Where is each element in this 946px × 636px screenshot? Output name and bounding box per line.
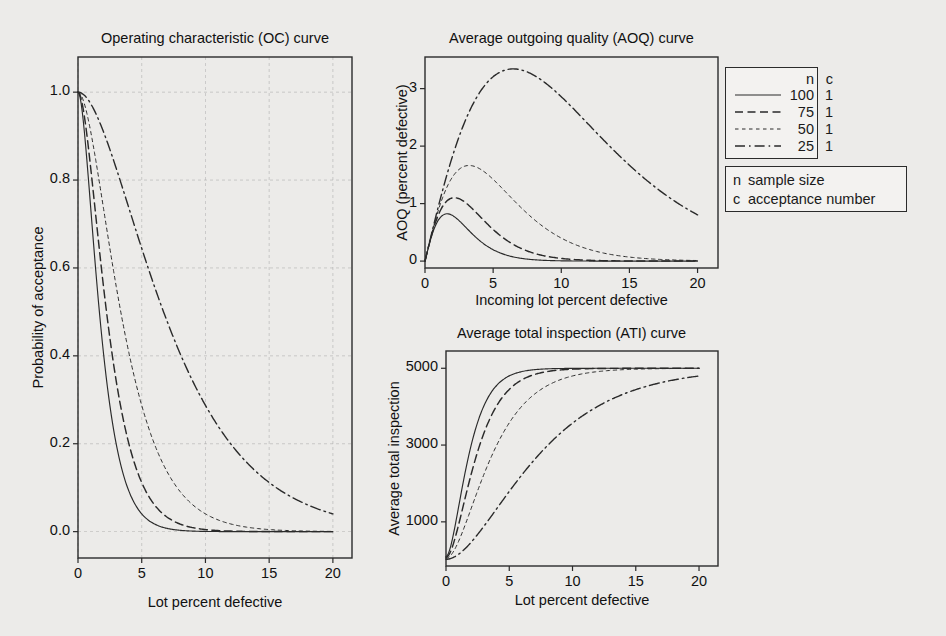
legend-line-sample-solid bbox=[732, 88, 784, 102]
oc-x-axis-label: Lot percent defective bbox=[78, 594, 352, 610]
oc-ytick-4: 0.8 bbox=[12, 170, 70, 186]
ati-ytick-2: 5000 bbox=[380, 358, 438, 374]
definition-key: n bbox=[733, 171, 748, 190]
legend-line-sample-dotted bbox=[732, 122, 784, 136]
aoq-xtick-3: 15 bbox=[607, 275, 651, 291]
oc-y-axis-label: Probability of acceptance bbox=[30, 57, 46, 558]
legend-item-n75: 751 bbox=[732, 103, 809, 120]
aoq-xtick-2: 10 bbox=[539, 275, 583, 291]
definition-n: nsample size bbox=[733, 171, 899, 190]
ati-ytick-1: 3000 bbox=[380, 435, 438, 451]
legend-c-value: 1 bbox=[819, 88, 833, 102]
ati-y-axis-label: Average total inspection bbox=[386, 351, 402, 566]
legend-header-row: n c bbox=[732, 72, 809, 86]
legend-n-value: 100 bbox=[784, 88, 814, 102]
aoq-ytick-3: 3 bbox=[359, 79, 417, 95]
definition-value: sample size bbox=[748, 171, 825, 190]
aoq-ytick-2: 2 bbox=[359, 136, 417, 152]
legend-n-value: 50 bbox=[784, 122, 814, 136]
aoq-title: Average outgoing quality (AOQ) curve bbox=[425, 30, 718, 46]
ati-title: Average total inspection (ATI) curve bbox=[425, 325, 718, 341]
oc-ytick-5: 1.0 bbox=[12, 82, 70, 98]
legend-c-value: 1 bbox=[819, 105, 833, 119]
legend-item-n50: 501 bbox=[732, 120, 809, 137]
ati-x-axis-label: Lot percent defective bbox=[446, 592, 718, 608]
oc-title: Operating characteristic (OC) curve bbox=[78, 30, 352, 46]
oc-ytick-1: 0.2 bbox=[12, 434, 70, 450]
definition-c: cacceptance number bbox=[733, 190, 899, 209]
legend-line-sample-dashdot bbox=[732, 139, 784, 153]
aoq-xtick-4: 20 bbox=[676, 275, 720, 291]
legend-rows: 1001751501251 bbox=[732, 86, 809, 154]
ati-xtick-1: 5 bbox=[487, 573, 531, 589]
definition-key: c bbox=[733, 190, 748, 209]
oc-ytick-2: 0.4 bbox=[12, 346, 70, 362]
legend-item-n100: 1001 bbox=[732, 86, 809, 103]
legend-header-spacer bbox=[732, 72, 784, 86]
aoq-ytick-0: 0 bbox=[359, 251, 417, 267]
oc-ytick-3: 0.6 bbox=[12, 258, 70, 274]
oc-xtick-4: 20 bbox=[311, 565, 355, 581]
oc-xtick-1: 5 bbox=[120, 565, 164, 581]
oc-xtick-2: 10 bbox=[183, 565, 227, 581]
definition-rows: nsample sizecacceptance number bbox=[733, 171, 899, 209]
oc-ytick-0: 0.0 bbox=[12, 522, 70, 538]
legend-line-sample-dashed bbox=[732, 105, 784, 119]
definition-value: acceptance number bbox=[748, 190, 875, 209]
aoq-x-axis-label: Incoming lot percent defective bbox=[425, 292, 718, 308]
ati-xtick-0: 0 bbox=[424, 573, 468, 589]
legend-header-c: c bbox=[819, 72, 833, 86]
aoq-xtick-1: 5 bbox=[471, 275, 515, 291]
ati-xtick-3: 15 bbox=[614, 573, 658, 589]
legend-header-n: n bbox=[784, 72, 814, 86]
legend-item-n25: 251 bbox=[732, 137, 809, 154]
legend-n-value: 75 bbox=[784, 105, 814, 119]
legend-c-value: 1 bbox=[819, 139, 833, 153]
ati-xtick-2: 10 bbox=[551, 573, 595, 589]
legend-box: n c 1001751501251 bbox=[725, 67, 818, 159]
aoq-ytick-1: 1 bbox=[359, 194, 417, 210]
oc-xtick-0: 0 bbox=[56, 565, 100, 581]
definitions-box: nsample sizecacceptance number bbox=[725, 166, 907, 212]
aoq-xtick-0: 0 bbox=[403, 275, 447, 291]
ati-xtick-4: 20 bbox=[677, 573, 721, 589]
oc-xtick-3: 15 bbox=[247, 565, 291, 581]
legend-c-value: 1 bbox=[819, 122, 833, 136]
legend-n-value: 25 bbox=[784, 139, 814, 153]
ati-ytick-0: 1000 bbox=[380, 512, 438, 528]
